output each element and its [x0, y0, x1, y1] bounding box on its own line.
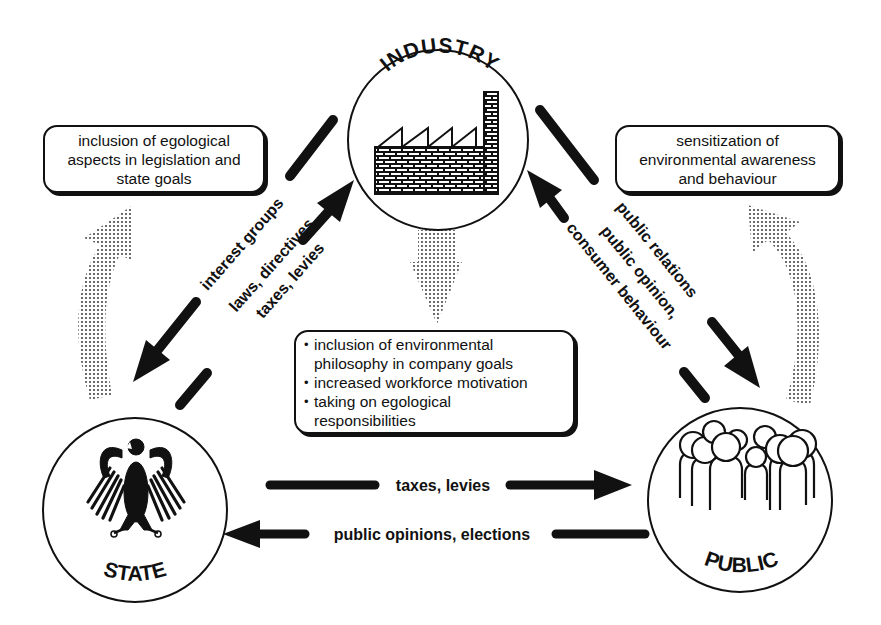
box-line: sensitization of: [617, 131, 838, 150]
list-item-line: inclusion of environmental: [314, 335, 567, 354]
list-item-line: taking on egological: [314, 392, 567, 411]
box-line: inclusion of egological: [45, 131, 263, 150]
industry-effect-arrow: [410, 230, 462, 324]
label-public-opinions-elections: public opinions, elections: [334, 526, 531, 543]
label-taxes-levies: taxes, levies: [396, 477, 490, 494]
box-line: state goals: [45, 169, 263, 188]
list-item-line: increased workforce motivation: [314, 373, 567, 392]
list-item: taking on egological responsibilities: [304, 392, 567, 430]
list-item: increased workforce motivation: [304, 373, 567, 392]
box-industry-effects: inclusion of environmental philosophy in…: [294, 330, 575, 434]
list-item-line: responsibilities: [314, 411, 567, 430]
list-item-line: philosophy in company goals: [314, 354, 567, 373]
industry-effects-list: inclusion of environmental philosophy in…: [304, 335, 567, 430]
box-state-goals: inclusion of egological aspects in legis…: [43, 125, 265, 193]
box-line: aspects in legislation and: [45, 150, 263, 169]
state-node: STATE: [43, 418, 227, 602]
feedback-arrow-state-goals: [78, 205, 133, 400]
industry-node: INDUSTRY: [348, 33, 528, 230]
public-node: PUBLIC: [648, 408, 832, 592]
diagram-canvas: INDUSTRY STATE: [0, 0, 881, 625]
label-interest-groups: interest groups: [197, 194, 287, 293]
box-line: and behaviour: [617, 169, 838, 188]
box-public-awareness: sensitization of environmental awareness…: [615, 125, 840, 193]
box-line: environmental awareness: [617, 150, 838, 169]
list-item: inclusion of environmental philosophy in…: [304, 335, 567, 373]
diagram-graphics: INDUSTRY STATE: [0, 0, 881, 625]
feedback-arrow-public-awareness: [748, 205, 819, 405]
